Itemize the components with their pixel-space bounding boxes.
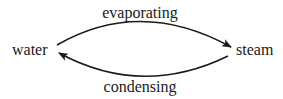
node-steam: steam xyxy=(236,42,273,58)
evaporating-arrow xyxy=(57,21,231,47)
node-water: water xyxy=(12,42,48,58)
state-cycle-diagram: water steam evaporating condensing xyxy=(0,0,283,99)
condensing-arrow xyxy=(59,53,228,76)
edge-label-condensing: condensing xyxy=(104,79,177,95)
edge-label-evaporating: evaporating xyxy=(102,5,178,21)
